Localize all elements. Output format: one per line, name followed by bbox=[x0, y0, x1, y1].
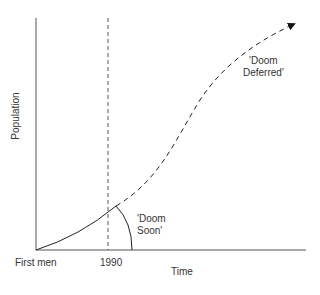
doom-deferred-line2: Deferred' bbox=[243, 67, 284, 79]
historical-curve bbox=[36, 206, 116, 250]
doom-soon-line2: Soon' bbox=[137, 225, 166, 237]
doom-deferred-line1: 'Doom bbox=[243, 55, 284, 67]
doom-soon-arc bbox=[116, 206, 132, 250]
diagram-canvas bbox=[0, 0, 320, 295]
x-axis-label: Time bbox=[171, 266, 193, 278]
doom-soon-label: 'Doom Soon' bbox=[137, 213, 166, 237]
tick-1990: 1990 bbox=[100, 257, 122, 269]
doom-deferred-label: 'Doom Deferred' bbox=[243, 55, 284, 79]
doom-soon-line1: 'Doom bbox=[137, 213, 166, 225]
y-axis-label: Population bbox=[10, 86, 22, 146]
tick-first-men: First men bbox=[15, 257, 57, 269]
doom-deferred-curve bbox=[116, 24, 294, 206]
